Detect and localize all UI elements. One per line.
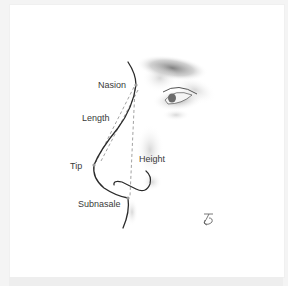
face-shading — [126, 124, 164, 226]
height-label: Height — [139, 154, 165, 164]
tip-label: Tip — [70, 161, 82, 171]
artist-signature-icon — [204, 214, 213, 225]
nose-profile-illustration — [0, 0, 288, 286]
tip-marker — [92, 163, 95, 166]
subnasale-marker — [126, 196, 129, 199]
subnasale-label: Subnasale — [78, 199, 121, 209]
nasion-marker — [134, 83, 137, 86]
nasion-label: Nasion — [98, 80, 126, 90]
length-label: Length — [82, 113, 110, 123]
